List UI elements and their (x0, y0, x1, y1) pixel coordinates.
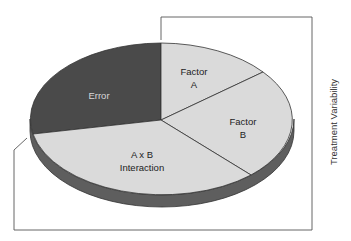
label-factor-a-line2: A (191, 79, 198, 90)
label-axb-line2: Interaction (120, 162, 164, 173)
label-axb-line1: A x B (131, 149, 153, 160)
pie-chart: Factor A Factor B A x B Interaction Erro… (0, 0, 351, 241)
slice-error (30, 43, 161, 134)
label-error: Error (88, 90, 109, 101)
label-factor-b-line1: Factor (230, 116, 257, 127)
label-factor-b-line2: B (240, 129, 246, 140)
label-treatment-variability: Treatment Variability (328, 79, 339, 165)
label-factor-a-line1: Factor (181, 66, 208, 77)
